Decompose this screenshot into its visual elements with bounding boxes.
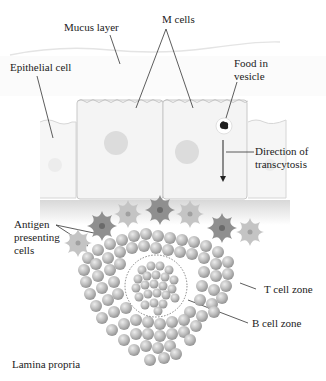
label-direction-line2: transcytosis <box>255 158 307 171</box>
label-mucus-layer: Mucus layer <box>64 21 119 34</box>
label-food-line1: Food in <box>234 57 268 70</box>
label-food-line2: vesicle <box>234 70 265 83</box>
label-lamina-propria: Lamina propria <box>12 358 80 371</box>
label-t-cell-zone: T cell zone <box>264 283 313 296</box>
label-antigen-line2: presenting <box>14 231 60 244</box>
label-b-cell-zone: B cell zone <box>252 317 301 330</box>
nucleus-2 <box>175 140 199 164</box>
label-m-cells: M cells <box>162 13 195 26</box>
label-direction-line1: Direction of <box>255 145 308 158</box>
mucus-layer-line <box>10 42 280 55</box>
label-antigen-line1: Antigen <box>14 218 49 231</box>
label-epithelial-cell: Epithelial cell <box>10 61 71 74</box>
nucleus-1 <box>104 131 128 155</box>
label-antigen-line3: cells <box>14 244 34 257</box>
gut-immune-diagram: Mucus layer M cells Epithelial cell Food… <box>0 0 326 381</box>
